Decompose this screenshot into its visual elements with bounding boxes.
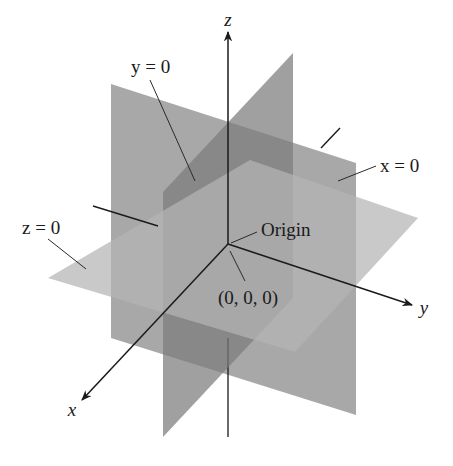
figure-canvas: z x y y = 0 x = 0 z = 0 Origin (0, 0, 0) bbox=[0, 0, 453, 466]
y-plane-label: y = 0 bbox=[131, 56, 170, 77]
leader-z-plane bbox=[48, 239, 86, 269]
origin-label: Origin bbox=[261, 219, 311, 240]
x-plane-label: x = 0 bbox=[380, 155, 419, 176]
z-plane-label: z = 0 bbox=[22, 217, 60, 238]
z-axis-label: z bbox=[223, 9, 232, 30]
y-axis-label: y bbox=[418, 297, 429, 318]
coordinate-planes-figure: z x y y = 0 x = 0 z = 0 Origin (0, 0, 0) bbox=[0, 0, 453, 466]
plane-edge-stroke-right bbox=[321, 128, 340, 148]
x-axis-label: x bbox=[67, 399, 77, 420]
origin-coords-label: (0, 0, 0) bbox=[218, 287, 278, 309]
